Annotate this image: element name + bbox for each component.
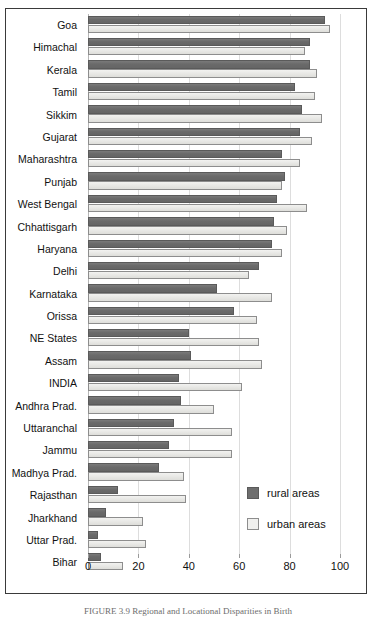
bar-urban — [88, 540, 146, 548]
bar-row: Uttaranchal — [83, 417, 357, 439]
bar-row: NE States — [83, 327, 357, 349]
bar-rural — [88, 396, 181, 404]
bar-rural — [88, 240, 272, 248]
bar-rural — [88, 172, 285, 180]
bar-urban — [88, 428, 232, 436]
bar-row: Haryana — [83, 238, 357, 260]
bar-urban — [88, 495, 186, 503]
x-tick — [88, 554, 89, 558]
bar-urban — [88, 383, 242, 391]
bar-row: Madhya Prad. — [83, 462, 357, 484]
bar-row: Gujarat — [83, 126, 357, 148]
bar-rural — [88, 374, 179, 382]
figure-container: GoaHimachalKeralaTamilSikkimGujaratMahar… — [0, 0, 376, 621]
x-tick — [239, 554, 240, 558]
bar-row: Delhi — [83, 260, 357, 282]
bar-rural — [88, 38, 310, 46]
x-tick — [340, 554, 341, 558]
bar-row: Maharashtra — [83, 148, 357, 170]
category-label: Karnataka — [29, 283, 77, 305]
bar-urban — [88, 450, 232, 458]
figure-caption: FIGURE 3.9 Regional and Locational Dispa… — [0, 606, 376, 616]
bar-rural — [88, 262, 259, 270]
bar-row: Sikkim — [83, 104, 357, 126]
category-label: Chhattisgarh — [17, 216, 77, 238]
category-label: Gujarat — [43, 126, 77, 148]
x-axis: 020406080100 — [83, 554, 357, 556]
bar-row: Himachal — [83, 36, 357, 58]
category-label: Himachal — [33, 36, 77, 58]
category-label: Maharashtra — [18, 148, 77, 170]
bar-rural — [88, 128, 300, 136]
bar-row: Chhattisgarh — [83, 216, 357, 238]
x-tick — [138, 554, 139, 558]
category-label: Goa — [57, 14, 77, 36]
bar-row: Andhra Prad. — [83, 395, 357, 417]
bar-urban — [88, 293, 272, 301]
bar-rural — [88, 284, 217, 292]
bar-rural — [88, 307, 234, 315]
bar-urban — [88, 92, 315, 100]
category-label: Tamil — [52, 81, 77, 103]
category-label: West Bengal — [18, 193, 77, 215]
chart-legend: rural areas urban areas — [247, 487, 326, 549]
bar-urban — [88, 69, 317, 77]
bar-rural — [88, 351, 191, 359]
bar-row: Tamil — [83, 81, 357, 103]
bar-urban — [88, 338, 259, 346]
x-tick — [290, 554, 291, 558]
category-label: Kerala — [47, 59, 77, 81]
x-tick-label: 40 — [183, 560, 195, 572]
bar-row: Goa — [83, 14, 357, 36]
legend-item-urban: urban areas — [247, 518, 326, 530]
bar-rural — [88, 83, 295, 91]
plot-area: GoaHimachalKeralaTamilSikkimGujaratMahar… — [83, 14, 357, 554]
bar-rural — [88, 150, 282, 158]
category-label: Haryana — [37, 238, 77, 260]
bar-urban — [88, 226, 287, 234]
bar-urban — [88, 137, 312, 145]
legend-swatch-urban-icon — [247, 518, 259, 530]
category-label: Orissa — [47, 305, 77, 327]
x-tick — [189, 554, 190, 558]
bar-row: Orissa — [83, 305, 357, 327]
bar-urban — [88, 47, 305, 55]
bar-rural — [88, 60, 310, 68]
category-label: Uttar Prad. — [26, 529, 77, 551]
category-label: Assam — [45, 350, 77, 372]
bar-urban — [88, 249, 282, 257]
category-label: Jharkhand — [28, 507, 77, 529]
bar-rural — [88, 217, 274, 225]
bar-rural — [88, 329, 189, 337]
bar-rural — [88, 105, 302, 113]
bar-row: Karnataka — [83, 283, 357, 305]
bar-row: Assam — [83, 350, 357, 372]
category-label: NE States — [30, 327, 77, 349]
bar-rural — [88, 486, 118, 494]
bar-urban — [88, 517, 143, 525]
category-label: Sikkim — [46, 104, 77, 126]
legend-label-rural: rural areas — [267, 487, 320, 499]
legend-item-rural: rural areas — [247, 487, 326, 499]
category-label: Punjab — [44, 171, 77, 193]
bar-urban — [88, 562, 123, 570]
bar-rural — [88, 195, 277, 203]
bar-rural — [88, 419, 174, 427]
x-tick-label: 80 — [283, 560, 295, 572]
category-label: Uttaranchal — [23, 417, 77, 439]
bar-urban — [88, 360, 262, 368]
legend-swatch-rural-icon — [247, 487, 259, 499]
bar-rural — [88, 463, 159, 471]
category-label: Madhya Prad. — [12, 462, 77, 484]
bar-row: INDIA — [83, 372, 357, 394]
category-label: Andhra Prad. — [15, 395, 77, 417]
x-tick-label: 0 — [85, 560, 91, 572]
bar-urban — [88, 472, 184, 480]
bar-row: Jammu — [83, 439, 357, 461]
bar-row: Punjab — [83, 171, 357, 193]
bar-row: West Bengal — [83, 193, 357, 215]
legend-label-urban: urban areas — [267, 518, 326, 530]
bar-urban — [88, 159, 300, 167]
category-label: INDIA — [49, 372, 77, 394]
bar-rural — [88, 508, 106, 516]
